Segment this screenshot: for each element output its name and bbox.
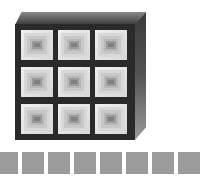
cell-bevel-ring [34, 43, 40, 47]
grid-cell [58, 30, 90, 60]
bottom-square [152, 152, 174, 174]
grid-cell [21, 30, 53, 60]
grid-cell [58, 104, 90, 134]
cell-bevel-ring [108, 43, 114, 47]
cell-bevel-ring [34, 80, 40, 84]
cell-bevel-ring [71, 43, 77, 47]
grid-cell [95, 30, 127, 60]
grid-cell [95, 104, 127, 134]
grid-cell [21, 104, 53, 134]
cell-bevel-ring [108, 80, 114, 84]
bottom-square [126, 152, 148, 174]
grid-cell [21, 67, 53, 97]
bottom-square [100, 152, 122, 174]
bottom-square [178, 152, 200, 174]
grid-cell [58, 67, 90, 97]
bottom-square [74, 152, 96, 174]
cell-bevel-ring [71, 80, 77, 84]
box-front-face [15, 24, 135, 140]
cell-bevel-ring [34, 117, 40, 121]
cell-bevel-ring [108, 117, 114, 121]
bottom-square [0, 152, 18, 174]
bottom-square [48, 152, 70, 174]
box-side-face [135, 12, 146, 140]
grid-cell [95, 67, 127, 97]
bottom-square [22, 152, 44, 174]
cell-bevel-ring [71, 117, 77, 121]
